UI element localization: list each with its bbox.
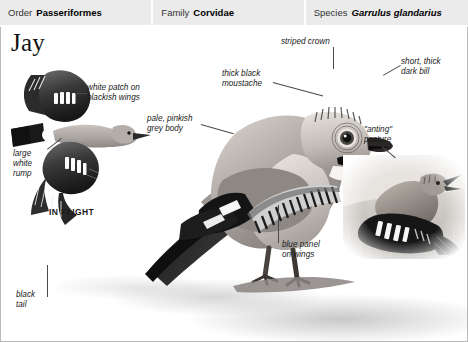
taxonomy-cell-species: Species Garrulus glandarius	[306, 0, 468, 25]
annotation-thick-black-moustache: thick black moustache	[222, 69, 262, 89]
species-label: Species	[314, 7, 348, 18]
illustration-plate: Jay	[0, 27, 468, 342]
annotation-blue-panel-on-wings: blue panel on wings	[282, 240, 320, 260]
annotation-black-tail: black tail	[16, 290, 35, 310]
leader-white-patch	[75, 93, 87, 94]
species-value: Garrulus glandarius	[352, 7, 442, 18]
annotation-pale-pinkish-grey-body: pale, pinkish grey body	[147, 114, 193, 134]
leader-black-tail	[47, 265, 48, 297]
annotation-anting-posture: "anting" posture	[364, 125, 392, 145]
anting-photo	[343, 155, 465, 259]
annotation-striped-crown: striped crown	[281, 37, 330, 47]
family-label: Family	[161, 7, 189, 18]
taxonomy-header: Order Passeriformes Family Corvidae Spec…	[0, 0, 468, 25]
leader-blue-panel-on-wings	[278, 205, 279, 243]
family-value: Corvidae	[193, 7, 234, 18]
annotation-large-white-rump: large white rump	[13, 149, 32, 179]
field-guide-page: Order Passeriformes Family Corvidae Spec…	[0, 0, 468, 342]
order-label: Order	[8, 7, 32, 18]
annotation-white-patch: white patch on blackish wings	[87, 83, 140, 103]
page-title: Jay	[11, 30, 45, 55]
taxonomy-cell-family: Family Corvidae	[153, 0, 303, 25]
taxonomy-cell-order: Order Passeriformes	[0, 0, 151, 25]
leader-striped-crown	[333, 47, 334, 69]
annotation-short-thick-dark-bill: short, thick dark bill	[401, 57, 441, 77]
annotation-in-flight: IN FLIGHT	[49, 207, 94, 217]
order-value: Passeriformes	[36, 7, 101, 18]
